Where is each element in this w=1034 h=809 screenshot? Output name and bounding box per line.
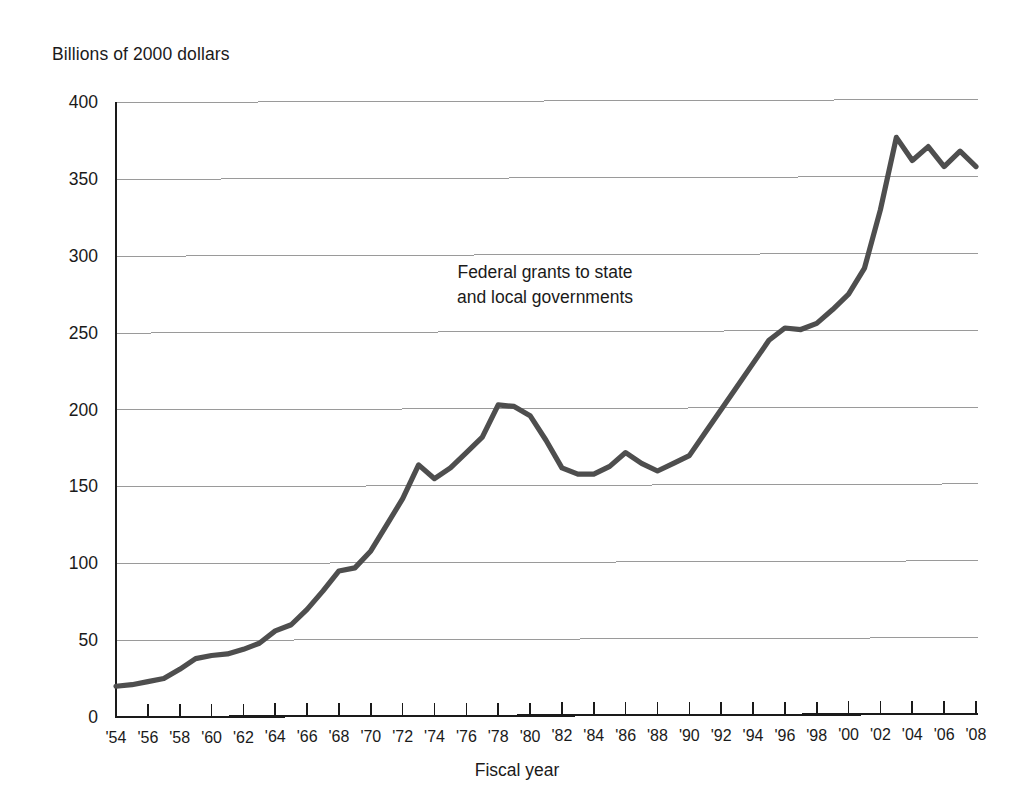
x-axis-tick-label: '74: [424, 728, 445, 745]
x-axis-tick-label: '82: [551, 727, 572, 744]
gridline: [116, 561, 978, 564]
y-axis-tick-label: 150: [69, 476, 98, 496]
x-axis-tick-label: '56: [137, 729, 158, 746]
y-axis-tick-label: 300: [69, 246, 98, 266]
y-axis-tick-label: 200: [69, 400, 98, 420]
gridline: [116, 100, 978, 103]
x-axis-tick-labels: '54'56'58'60'62'64'66'68'70'72'74'76'78'…: [106, 726, 987, 746]
gridlines-group: [116, 100, 978, 641]
y-axis-unit-label: Billions of 2000 dollars: [52, 44, 230, 65]
x-axis-tick-label: '78: [488, 728, 509, 745]
x-axis-tick-label: '54: [106, 729, 127, 746]
x-axis-tick-label: '84: [583, 727, 604, 744]
x-axis-tick-label: '70: [360, 728, 381, 745]
x-axis-tick-label: '08: [966, 726, 987, 743]
x-axis-tick-label: '88: [647, 727, 668, 744]
data-series-line: [116, 137, 976, 686]
x-axis-tick-label: '66: [297, 728, 318, 745]
gridline: [116, 407, 978, 410]
y-axis-tick-label: 400: [69, 92, 98, 112]
x-axis-tick-label: '60: [201, 729, 222, 746]
y-axis-tick-label: 100: [69, 553, 98, 573]
y-axis-tick-label: 50: [79, 630, 99, 650]
x-axis-tick-label: '76: [456, 728, 477, 745]
x-axis-tick-label: '58: [169, 729, 190, 746]
x-axis-tick-label: '62: [233, 729, 254, 746]
x-axis-tick-label: '02: [870, 726, 891, 743]
x-axis-tick-label: '68: [329, 728, 350, 745]
x-axis-tick-label: '92: [711, 727, 732, 744]
line-chart-plot: 050100150200250300350400 '54'56'58'60'62…: [0, 0, 1034, 750]
x-axis-tick-label: '04: [902, 726, 923, 743]
gridline: [116, 176, 978, 179]
gridline: [116, 253, 978, 256]
x-axis-tick-label: '96: [774, 727, 795, 744]
gridline: [116, 484, 978, 487]
y-axis-tick-label: 250: [69, 323, 98, 343]
chart-container: Billions of 2000 dollars 050100150200250…: [0, 0, 1034, 809]
x-axis-tick-label: '72: [392, 728, 413, 745]
y-axis-tick-labels: 050100150200250300350400: [69, 92, 98, 727]
x-axis-tick-label: '86: [615, 727, 636, 744]
y-axis-tick-label: 0: [88, 707, 98, 727]
y-axis-tick-label: 350: [69, 169, 98, 189]
x-axis-tick-label: '90: [679, 727, 700, 744]
gridline: [116, 330, 978, 333]
x-axis-title: Fiscal year: [0, 760, 1034, 781]
x-axis-tick-label: '98: [806, 727, 827, 744]
x-axis-tick-label: '94: [743, 727, 764, 744]
x-axis-tick-label: '80: [520, 728, 541, 745]
series-annotation-label: Federal grants to state and local govern…: [340, 260, 750, 310]
x-axis-tick-label: '06: [934, 726, 955, 743]
x-axis-tick-label: '64: [265, 728, 286, 745]
x-axis-tick-label: '00: [838, 726, 859, 743]
gridline: [116, 638, 978, 641]
